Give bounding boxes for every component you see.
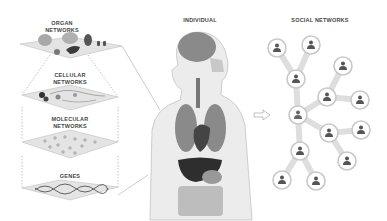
trachea-icon (196, 78, 200, 108)
genes-plane (22, 180, 118, 200)
person-icon (345, 157, 349, 161)
zoom-line-top (122, 46, 160, 110)
person-node (351, 91, 369, 109)
person-icon (327, 129, 331, 133)
individual-label: INDIVIDUAL (170, 17, 230, 24)
person-icon (296, 111, 300, 115)
arrow-icon (254, 110, 270, 120)
person-icon (294, 75, 298, 79)
brain-icon (178, 32, 216, 62)
nasal-cavity-icon (210, 58, 224, 72)
person-node (287, 70, 305, 88)
person-node (291, 142, 309, 160)
person-icon (314, 177, 318, 181)
person-node (334, 57, 352, 75)
stomach-icon (202, 170, 222, 184)
person-node (289, 106, 307, 124)
individual-figure (150, 32, 252, 220)
diagram: ORGAN NETWORKS CELLULAR NETWORKS MOLECUL… (0, 0, 387, 221)
person-icon (280, 176, 284, 180)
person-node (268, 39, 286, 57)
molecular-networks-plane (22, 130, 118, 158)
brain-icon (62, 32, 78, 44)
lungs-icon (38, 34, 52, 46)
person-node (302, 36, 320, 54)
cellular-networks-label: CELLULAR NETWORKS (42, 72, 98, 85)
person-icon (358, 96, 362, 100)
person-icon (298, 147, 302, 151)
left-lung-icon (175, 104, 197, 152)
person-node (273, 171, 291, 189)
person-node (307, 172, 325, 190)
person-node (352, 121, 370, 139)
kidney-icon (84, 34, 92, 46)
genes-label: GENES (50, 173, 90, 180)
intestines-icon (178, 186, 223, 216)
person-icon (359, 126, 363, 130)
person-icon (325, 93, 329, 97)
organ-networks-label: ORGAN NETWORKS (38, 20, 86, 33)
person-icon (309, 41, 313, 45)
stomach-icon (54, 49, 60, 55)
social-networks-label: SOCIAL NETWORKS (280, 17, 360, 24)
person-node (338, 152, 356, 170)
person-icon (275, 44, 279, 48)
person-icon (341, 62, 345, 66)
diagram-canvas (0, 0, 387, 221)
person-node (318, 88, 336, 106)
zoom-line-bottom (118, 175, 148, 195)
molecular-networks-label: MOLECULAR NETWORKS (40, 116, 100, 129)
organ-networks-plane (20, 32, 122, 58)
cellular-networks-plane (22, 85, 118, 110)
person-node (320, 124, 338, 142)
